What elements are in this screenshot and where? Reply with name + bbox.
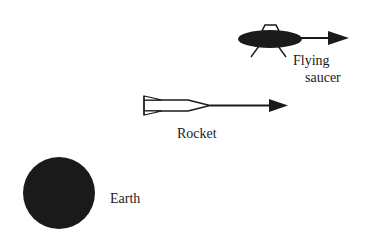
rocket [144, 96, 210, 115]
saucer-body-icon [238, 30, 302, 48]
arrowhead-icon [328, 31, 349, 45]
earth-icon [23, 157, 95, 229]
rocket-fin-top [144, 96, 162, 100]
saucer-label-line2: saucer [305, 70, 341, 85]
earth-label: Earth [110, 191, 140, 206]
rocket-velocity-arrow [210, 99, 288, 112]
saucer-label-line1: Flying [293, 53, 330, 68]
rocket-body-icon [144, 100, 210, 111]
saucer-leg-right [278, 46, 286, 57]
saucer-leg-left [251, 46, 259, 57]
arrowhead-icon [269, 99, 288, 112]
rocket-label: Rocket [177, 126, 217, 141]
diagram-canvas: Flying saucer Rocket Earth [0, 0, 367, 250]
saucer-velocity-arrow [300, 31, 349, 45]
rocket-fin-bottom [144, 111, 162, 115]
